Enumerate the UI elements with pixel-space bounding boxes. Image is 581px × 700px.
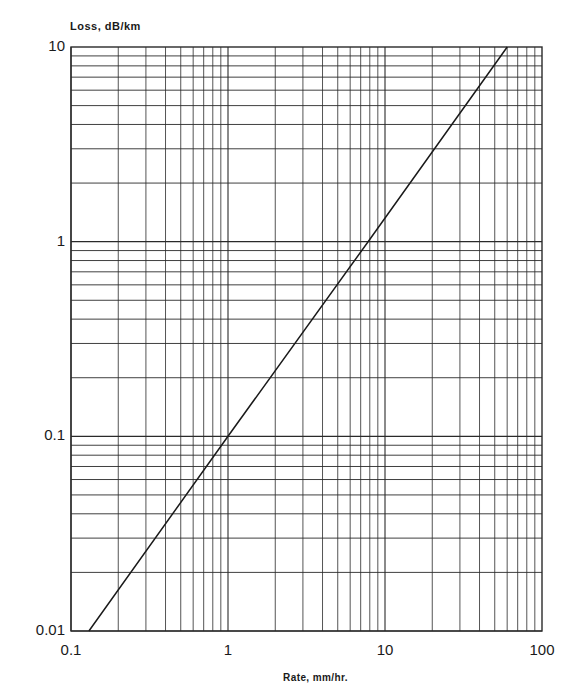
plot-frame	[71, 47, 542, 631]
y-tick-label: 0.1	[5, 426, 65, 443]
y-tick-label: 10	[5, 37, 65, 54]
x-tick-label: 100	[512, 641, 572, 658]
chart-canvas	[0, 0, 581, 700]
x-axis-title: Rate, mm/hr.	[0, 672, 581, 683]
x-tick-label: 0.1	[41, 641, 101, 658]
x-tick-label: 10	[355, 641, 415, 658]
y-tick-label: 1	[5, 232, 65, 249]
x-tick-label: 1	[198, 641, 258, 658]
grid-lines	[71, 47, 542, 631]
y-tick-label: 0.01	[5, 621, 65, 638]
data-line	[89, 47, 507, 631]
y-axis-title: Loss, dB/km	[70, 20, 141, 32]
